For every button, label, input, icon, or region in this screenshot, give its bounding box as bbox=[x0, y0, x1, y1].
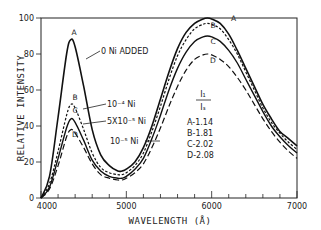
curve-label-c-right: C bbox=[210, 37, 215, 46]
curve-a bbox=[41, 18, 297, 198]
svg-text:10⁻⁴ Ni: 10⁻⁴ Ni bbox=[107, 100, 135, 109]
legend-title-denominator: Iₛ bbox=[200, 103, 205, 112]
curve-label-d-right: D bbox=[210, 56, 216, 65]
plot-axes bbox=[41, 18, 297, 198]
y-axis-title: RELATIVE INTENSITY bbox=[16, 55, 26, 162]
line-chart: 020406080100 4000500060007000 RELATIVE I… bbox=[0, 0, 321, 230]
svg-text:5X10⁻⁵ Ni: 5X10⁻⁵ Ni bbox=[107, 117, 146, 126]
svg-text:10⁻⁵ Ni: 10⁻⁵ Ni bbox=[110, 137, 138, 146]
y-tick-label: 100 bbox=[19, 14, 34, 23]
x-axis-ticks: 4000500060007000 bbox=[37, 191, 307, 211]
curve-label-b-right: B bbox=[210, 21, 215, 30]
curve-c bbox=[41, 36, 297, 198]
x-tick-label: 5000 bbox=[116, 202, 136, 211]
x-tick-label: 4000 bbox=[37, 202, 57, 211]
legend-entry-c: C-2.02 bbox=[187, 140, 213, 149]
legend-title-numerator: I₁ bbox=[200, 90, 206, 99]
legend-entry-b: B-1.81 bbox=[187, 129, 213, 138]
x-tick-label: 7000 bbox=[287, 202, 307, 211]
x-tick-label: 6000 bbox=[201, 202, 221, 211]
annotation-a: 0 Ni ADDED bbox=[86, 47, 148, 59]
curves bbox=[41, 18, 297, 198]
curve-label-a-right: A bbox=[231, 14, 237, 23]
svg-text:0 Ni ADDED: 0 Ni ADDED bbox=[101, 47, 148, 56]
legend-entry-a: A-1.14 bbox=[187, 118, 213, 127]
curve-label-b-left: B bbox=[72, 93, 77, 102]
y-tick-label: 0 bbox=[29, 194, 34, 203]
curve-label-d-left: D bbox=[72, 130, 78, 139]
x-axis-title: WAVELENGTH (Å) bbox=[129, 215, 212, 226]
legend-entry-d: D-2.08 bbox=[187, 151, 214, 160]
curve-d bbox=[41, 54, 297, 198]
curve-label-a-left: A bbox=[71, 28, 77, 37]
annotation-c: 5X10⁻⁵ Ni bbox=[83, 117, 146, 126]
plot-frame bbox=[41, 18, 297, 198]
legend: I₁ Iₛ A-1.14 B-1.81 C-2.02 D-2.08 bbox=[187, 90, 214, 160]
annotation-b: 10⁻⁴ Ni bbox=[83, 100, 135, 109]
curve-label-c-left: C bbox=[72, 106, 77, 115]
